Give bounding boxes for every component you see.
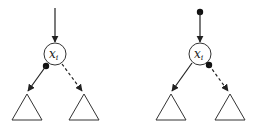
dashed-edge	[62, 64, 82, 91]
dashed-edge	[209, 65, 228, 91]
left-subtree-triangle	[156, 94, 186, 120]
left-diagram: xi	[12, 8, 99, 120]
left-subtree-triangle	[12, 94, 42, 120]
diagram-canvas: xi xi	[0, 0, 253, 129]
right-diagram: xi	[156, 9, 245, 120]
solid-edge	[172, 63, 192, 91]
solid-edge	[28, 66, 46, 91]
right-subtree-triangle	[215, 94, 245, 120]
right-subtree-triangle	[69, 94, 99, 120]
